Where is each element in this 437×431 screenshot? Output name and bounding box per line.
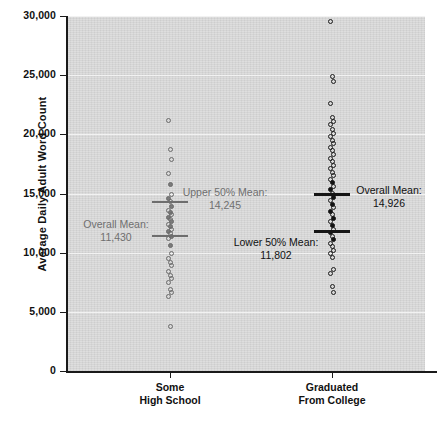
data-point (328, 271, 333, 276)
y-tick-label-0: 0 (50, 364, 56, 376)
x-label-line-1: Graduated (272, 381, 392, 394)
gridline-30000 (67, 16, 425, 17)
x-label-line-2: High School (110, 394, 230, 407)
y-tick-label-30000: 30,000 (23, 9, 56, 21)
y-tick-15000 (60, 194, 67, 195)
annotation-label: Lower 50% Mean: (234, 236, 319, 248)
annotation-value: 11,430 (70, 231, 162, 244)
x-tick-some-high-school (170, 372, 171, 378)
y-tick-10000 (60, 253, 67, 254)
x-label-line-1: Some (110, 381, 230, 394)
data-point (328, 101, 333, 106)
data-point (331, 79, 336, 84)
y-tick-25000 (60, 75, 67, 76)
annotation-overall-mean-right: Overall Mean: 14,926 (341, 184, 437, 210)
mean-marker-lower-50-mean (314, 230, 350, 233)
data-point (166, 294, 171, 299)
annotation-upper-50-mean: Upper 50% Mean: 14,245 (170, 186, 280, 212)
annotation-value: 11,802 (221, 249, 331, 262)
data-point (166, 280, 171, 285)
data-point (168, 324, 173, 329)
annotation-label: Overall Mean: (356, 184, 421, 196)
gridline-25000 (67, 75, 425, 76)
y-tick-20000 (60, 134, 67, 135)
annotation-label: Upper 50% Mean: (183, 186, 268, 198)
gridline-5000 (67, 312, 425, 313)
annotation-overall-mean-left: Overall Mean: 11,430 (70, 218, 162, 244)
y-tick-5000 (60, 312, 67, 313)
gridline-20000 (67, 134, 425, 135)
x-tick-graduated-from-college (332, 372, 333, 378)
y-tick-30000 (60, 16, 67, 17)
data-point (168, 243, 173, 248)
data-point (166, 171, 171, 176)
data-point (168, 147, 173, 152)
annotation-label: Overall Mean: (83, 218, 148, 230)
annotation-value: 14,245 (170, 199, 280, 212)
data-point (330, 284, 335, 289)
data-point (331, 290, 336, 295)
data-point (166, 118, 171, 123)
x-label-line-2: From College (272, 394, 392, 407)
data-point (169, 263, 174, 268)
y-axis-title: Average Daily Adult Word Count (36, 54, 48, 314)
x-axis-line (66, 371, 437, 373)
annotation-value: 14,926 (341, 197, 437, 210)
y-tick-0 (60, 371, 67, 372)
x-axis-label-graduated-from-college: Graduated From College (272, 381, 392, 407)
data-point (328, 19, 333, 24)
x-axis-label-some-high-school: Some High School (110, 381, 230, 407)
annotation-lower-50-mean: Lower 50% Mean: 11,802 (221, 236, 331, 262)
data-point (169, 157, 174, 162)
chart-page: 05,00010,00015,00020,00025,00030,000 Ave… (0, 0, 437, 431)
